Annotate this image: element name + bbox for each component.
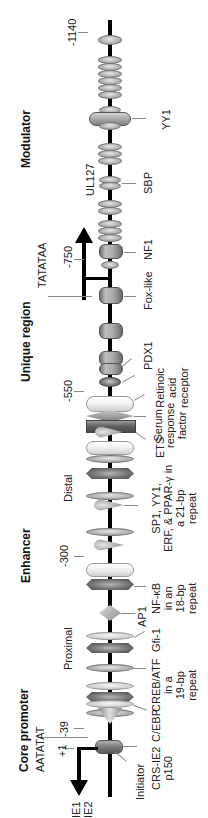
- binding-site-spindle: [86, 468, 134, 479]
- binding-site-ellipse: [98, 157, 122, 165]
- label-line: CRS-IE2: [150, 747, 162, 790]
- label-gfi-1: Gfi-1: [150, 628, 162, 652]
- position-label-300: -300: [58, 545, 70, 567]
- leader-line: [134, 705, 147, 711]
- label-ap1: AP1: [136, 606, 148, 627]
- subregion-label-distal: Distal: [62, 474, 74, 502]
- label-yy1: YY1: [160, 109, 172, 130]
- transcription-arrow: [77, 747, 81, 783]
- binding-site-ellipse: [86, 455, 134, 463]
- position-tick: [74, 259, 84, 260]
- leader-line: [123, 746, 137, 747]
- nf1-site: [99, 244, 123, 259]
- label-fox-like: Fox-like: [142, 271, 154, 310]
- position-label-39: -39: [58, 721, 70, 737]
- leader-line: [122, 375, 135, 383]
- label-line: factor: [176, 403, 188, 448]
- arrow-head-icon: [75, 227, 93, 243]
- binding-site-ellipse: [98, 91, 122, 99]
- leader-line: [115, 752, 126, 762]
- sequence-label-tatataa: TATATAA: [36, 243, 48, 288]
- binding-site-ellipse: [86, 682, 134, 690]
- label-sbp: SBP: [142, 172, 154, 194]
- leader-line: [124, 505, 138, 506]
- transcription-arrow-foot: [82, 277, 110, 280]
- label-line: CREB/ATF: [150, 658, 162, 712]
- label-nf-kb: NF-κB in an 18-bp repeat: [150, 583, 198, 614]
- binding-site-ellipse: [98, 207, 122, 215]
- binding-site-ellipse: [99, 182, 121, 190]
- label-line: NF-κB: [150, 583, 162, 614]
- position-tick: [74, 728, 84, 729]
- aatatat-line: [40, 737, 88, 738]
- c-ebp-site: [86, 700, 134, 708]
- label-line: p150: [162, 747, 174, 790]
- nf-kb-site: [86, 579, 134, 590]
- transcript-label-ie1: IE1: [70, 801, 82, 818]
- binding-site-ellipse: [86, 492, 134, 500]
- label-crs-ie2-p150: CRS-IE2 p150: [150, 747, 174, 790]
- label-pdx1: PDX1: [142, 341, 154, 370]
- leader-line: [124, 296, 136, 297]
- creb-atf-site: [86, 664, 134, 672]
- binding-site-spindle: [86, 643, 134, 653]
- binding-site-block: [99, 363, 123, 375]
- binding-site-ellipse: [98, 35, 122, 45]
- label-c-ebp: C/EBP: [150, 709, 162, 742]
- label-line: repeat: [186, 583, 198, 614]
- label-nf1: NF1: [142, 239, 154, 260]
- transcription-arrow-foot: [78, 747, 98, 750]
- label-initiator: Initiator: [134, 764, 146, 800]
- binding-site-block: [99, 323, 123, 339]
- leader-line: [134, 668, 146, 669]
- label-line: ERF, & PPAR-γ in: [162, 465, 174, 552]
- leader-line: [134, 586, 146, 587]
- position-label-550: -550: [62, 380, 74, 402]
- binding-site-ellipse: [86, 528, 134, 536]
- gfi-1-site: [86, 632, 134, 640]
- binding-site-pill: [86, 563, 134, 577]
- serum-response-factor-site: [86, 396, 134, 412]
- region-label-modulator: Modulator: [20, 110, 32, 168]
- binding-site-ellipse: [99, 122, 121, 130]
- label-line: in an: [162, 583, 174, 614]
- label-line: repeat: [186, 658, 198, 712]
- leader-line: [134, 394, 145, 401]
- label-ets: ETS: [154, 437, 166, 458]
- sequence-label-aatatat: AATATAT: [34, 727, 46, 772]
- crs-ie2-site: [95, 740, 123, 754]
- subregion-label-proximal: Proximal: [62, 627, 74, 670]
- position-label-1140: -1140: [66, 19, 78, 46]
- region-label-enhancer: Enhancer: [20, 528, 32, 583]
- leader-line: [134, 416, 146, 417]
- leader-line: [132, 118, 146, 119]
- leader-line: [122, 358, 132, 366]
- leader-line: [121, 613, 135, 614]
- tatataa-line: [48, 296, 92, 297]
- leader-line: [135, 432, 145, 440]
- retinoic-acid-receptor-site: [99, 377, 121, 387]
- binding-site-pill: [86, 441, 134, 455]
- label-line: SP1, YY1,: [150, 465, 162, 552]
- position-tick: [74, 391, 84, 392]
- label-sp1-yy1-erf-ppar: SP1, YY1, ERF, & PPAR-γ in a 21-bp repea…: [150, 465, 198, 552]
- leader-line: [124, 252, 136, 253]
- transcript-label-ie2: IE2: [82, 801, 94, 818]
- region-label-core-promoter: Core promoter: [18, 689, 30, 772]
- region-label-unique: Unique region: [20, 301, 32, 382]
- position-label-plus1: +1: [56, 744, 68, 757]
- position-label-750: -750: [62, 246, 74, 268]
- ap1-site: [99, 605, 121, 621]
- label-line: repeat: [186, 465, 198, 552]
- fox-like-site: [99, 287, 123, 304]
- label-line: in a: [162, 658, 174, 712]
- label-line: a 21-bp: [174, 465, 186, 552]
- position-tick: [74, 556, 84, 557]
- label-creb-atf: CREB/ATF in a 19-bp repeat: [150, 658, 198, 712]
- leader-line: [122, 183, 136, 184]
- binding-site-ellipse: [98, 234, 122, 242]
- ul127-label: UL127: [84, 164, 96, 196]
- position-tick: [78, 32, 88, 33]
- label-line: 19-bp: [174, 658, 186, 712]
- leader-line: [134, 631, 145, 638]
